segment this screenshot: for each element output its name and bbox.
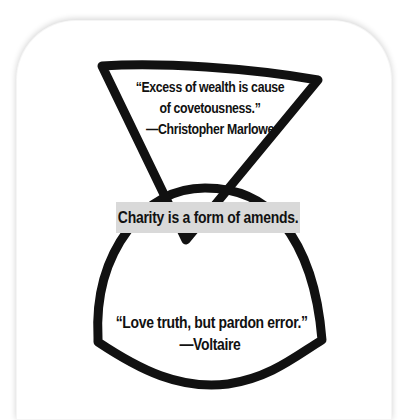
bottom-quote-attribution: —Voltaire	[116, 334, 305, 356]
top-quote-line-2: of covetousness.”	[128, 97, 292, 118]
bottom-quote: “Love truth, but pardon error.” —Voltair…	[116, 312, 305, 356]
bottom-quote-line-1: “Love truth, but pardon error.”	[116, 312, 305, 334]
top-quote-attribution: —Christopher Marlowe	[128, 118, 292, 139]
center-banner: Charity is a form of amends.	[116, 202, 300, 233]
banner-text: Charity is a form of amends.	[118, 208, 299, 228]
top-quote-line-1: “Excess of wealth is cause	[128, 76, 292, 97]
top-quote: “Excess of wealth is cause of covetousne…	[128, 76, 292, 139]
